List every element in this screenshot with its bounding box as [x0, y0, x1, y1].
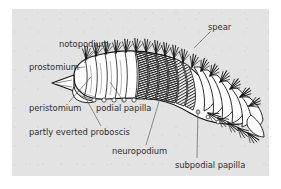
- label-spear: spear: [208, 23, 231, 31]
- label-peristomium: peristomium: [29, 104, 81, 112]
- label-notopodium: notopodium: [59, 40, 109, 48]
- label-neuropodium: neuropodium: [112, 147, 167, 155]
- label-prostomium: prostomium: [29, 63, 79, 71]
- label-subpodial-papilla: subpodial papilla: [175, 161, 245, 169]
- label-partly-everted-proboscis: partly everted proboscis: [29, 128, 130, 136]
- figure-page: notopodiumprostomiumperistomiumpartly ev…: [0, 0, 281, 189]
- leader-line-spear: [194, 31, 211, 48]
- figure-panel: notopodiumprostomiumperistomiumpartly ev…: [12, 9, 269, 176]
- label-podial-papilla: podial papilla: [96, 104, 151, 112]
